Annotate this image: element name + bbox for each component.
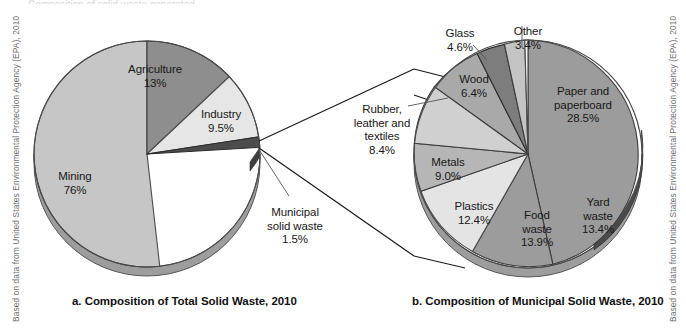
credit-left: Based on data from United States Environ… — [11, 16, 21, 322]
label-glass-value: 4.6% — [447, 41, 473, 53]
label-food-line1: Food — [524, 209, 550, 221]
label-wood-value: 6.4% — [461, 87, 487, 99]
label-food-line2: waste — [522, 223, 552, 235]
label-industry-name: Industry — [201, 108, 241, 120]
label-other: Other3.4% — [500, 25, 556, 52]
label-paper-and-paperboard: Paper andpaperboard28.5% — [537, 85, 629, 126]
pie-charts-vector-layer — [0, 0, 686, 329]
label-plastics-name: Plastics — [455, 200, 494, 212]
pie-a-callout-leader — [256, 145, 289, 196]
label-municipal-solid-waste: Municipalsolid waste1.5% — [252, 206, 338, 247]
label-glass: Glass4.6% — [434, 27, 486, 54]
label-mining-name: Mining — [58, 170, 91, 182]
label-rubber-value: 8.4% — [369, 144, 395, 156]
label-rubber-leather-textiles: Rubber,leather andtextiles8.4% — [338, 103, 426, 157]
label-msw-line2: solid waste — [267, 220, 323, 232]
label-rubber-line1: Rubber, — [362, 103, 402, 115]
label-agriculture-name: Agriculture — [128, 63, 182, 75]
label-rubber-line3: textiles — [365, 130, 400, 142]
label-metals: Metals9.0% — [417, 156, 479, 183]
label-paper-line2: paperboard — [554, 99, 612, 111]
label-metals-value: 9.0% — [435, 170, 461, 182]
label-plastics-value: 12.4% — [458, 214, 490, 226]
label-industry: Industry9.5% — [181, 108, 261, 135]
label-agriculture-value: 13% — [144, 77, 167, 89]
label-yard-value: 13.4% — [582, 223, 614, 235]
credit-right: Based on data from United States Environ… — [668, 16, 678, 322]
label-other-value: 3.4% — [515, 39, 541, 51]
label-glass-name: Glass — [446, 27, 475, 39]
label-food-value: 13.9% — [521, 236, 553, 248]
label-mining: Mining76% — [38, 170, 112, 197]
label-plastics: Plastics12.4% — [442, 200, 506, 227]
label-paper-line1: Paper and — [557, 85, 609, 97]
label-metals-name: Metals — [431, 156, 464, 168]
label-food-waste: Foodwaste13.9% — [510, 209, 564, 250]
label-mining-value: 76% — [64, 184, 87, 196]
label-wood-name: Wood — [459, 73, 488, 85]
waste-composition-figure: Composition of solid waste generated — [0, 0, 686, 329]
label-msw-line1: Municipal — [271, 206, 319, 218]
label-industry-value: 9.5% — [208, 122, 234, 134]
label-wood: Wood6.4% — [447, 73, 501, 100]
label-yard-waste: Yardwaste13.4% — [570, 196, 626, 237]
caption-chart-a: a. Composition of Total Solid Waste, 201… — [72, 295, 297, 307]
label-paper-value: 28.5% — [567, 112, 599, 124]
label-yard-line2: waste — [583, 210, 613, 222]
label-other-name: Other — [514, 25, 542, 37]
caption-chart-b: b. Composition of Municipal Solid Waste,… — [412, 295, 664, 307]
label-rubber-line2: leather and — [354, 117, 410, 129]
label-yard-line1: Yard — [586, 196, 609, 208]
label-msw-value: 1.5% — [282, 233, 308, 245]
label-agriculture: Agriculture13% — [107, 63, 203, 90]
